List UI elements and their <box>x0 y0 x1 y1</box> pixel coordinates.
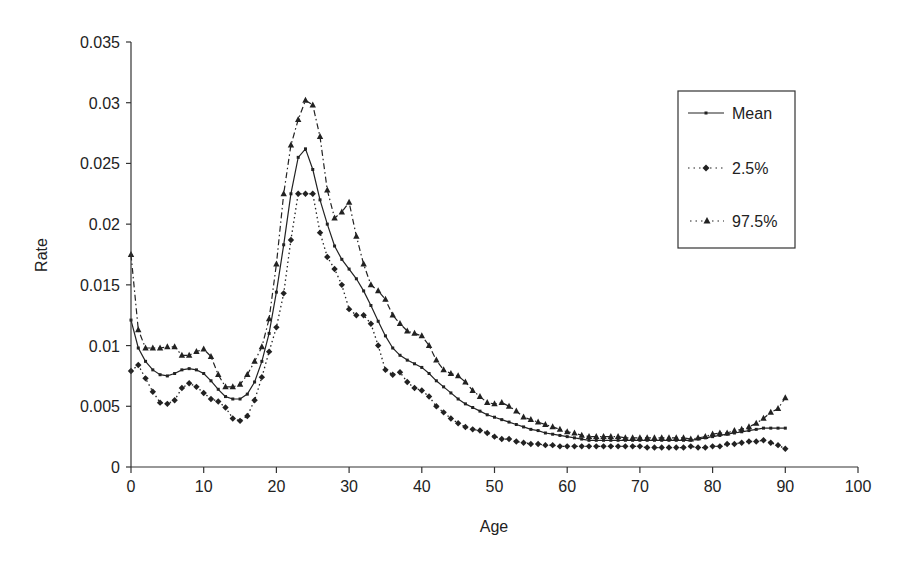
square-marker-icon <box>595 439 598 442</box>
square-marker-icon <box>420 366 423 369</box>
triangle-marker-icon <box>462 378 468 384</box>
square-marker-icon <box>348 268 351 271</box>
triangle-marker-icon <box>615 433 621 439</box>
triangle-marker-icon <box>390 312 396 318</box>
diamond-marker-icon <box>746 438 752 444</box>
square-marker-icon <box>617 439 620 442</box>
square-marker-icon <box>784 427 787 430</box>
diamond-marker-icon <box>579 443 585 449</box>
square-marker-icon <box>762 427 765 430</box>
square-marker-icon <box>151 368 154 371</box>
diamond-marker-icon <box>324 254 330 260</box>
square-marker-icon <box>755 428 758 431</box>
diamond-marker-icon <box>484 430 490 436</box>
diamond-marker-icon <box>310 191 316 197</box>
triangle-marker-icon <box>353 233 359 239</box>
square-marker-icon <box>769 427 772 430</box>
legend-label-2-5: 2.5% <box>732 160 768 177</box>
triangle-marker-icon <box>571 429 577 435</box>
triangle-marker-icon <box>280 190 286 196</box>
diamond-marker-icon <box>615 443 621 449</box>
square-marker-icon <box>515 423 518 426</box>
triangle-marker-icon <box>295 116 301 122</box>
diamond-marker-icon <box>724 441 730 447</box>
diamond-marker-icon <box>157 399 163 405</box>
triangle-marker-icon <box>644 434 650 440</box>
diamond-marker-icon <box>150 389 156 395</box>
square-marker-icon <box>428 372 431 375</box>
square-marker-icon <box>159 373 162 376</box>
x-axis: 0102030405060708090100 <box>127 467 872 495</box>
y-axis: 00.0050.010.0150.020.0250.030.035 <box>80 34 131 476</box>
diamond-marker-icon <box>331 266 337 272</box>
square-marker-icon <box>224 395 227 398</box>
triangle-marker-icon <box>760 415 766 421</box>
diamond-marker-icon <box>549 442 555 448</box>
triangle-marker-icon <box>179 352 185 358</box>
triangle-marker-icon <box>629 434 635 440</box>
x-axis-title: Age <box>480 518 509 535</box>
diamond-marker-icon <box>273 324 279 330</box>
x-tick-label: 80 <box>704 478 722 495</box>
diamond-marker-icon <box>651 444 657 450</box>
triangle-marker-icon <box>288 142 294 148</box>
square-marker-icon <box>289 192 292 195</box>
square-marker-icon <box>144 360 147 363</box>
square-marker-icon <box>166 374 169 377</box>
square-marker-icon <box>202 372 205 375</box>
diamond-marker-icon <box>499 436 505 442</box>
y-tick-label: 0.03 <box>89 95 120 112</box>
x-tick-label: 20 <box>268 478 286 495</box>
diamond-marker-icon <box>506 436 512 442</box>
diamond-marker-icon <box>709 443 715 449</box>
triangle-marker-icon <box>753 420 759 426</box>
diamond-marker-icon <box>251 397 257 403</box>
square-marker-icon <box>471 406 474 409</box>
x-tick-label: 30 <box>340 478 358 495</box>
triangle-marker-icon <box>775 405 781 411</box>
square-marker-icon <box>609 439 612 442</box>
triangle-marker-icon <box>666 434 672 440</box>
square-marker-icon <box>413 362 416 365</box>
diamond-marker-icon <box>477 427 483 433</box>
triangle-marker-icon <box>782 394 788 400</box>
square-marker-icon <box>231 398 234 401</box>
diamond-marker-icon <box>222 404 228 410</box>
diamond-marker-icon <box>135 362 141 368</box>
square-marker-icon <box>558 434 561 437</box>
diamond-marker-icon <box>186 380 192 386</box>
diamond-marker-icon <box>760 437 766 443</box>
diamond-marker-icon <box>491 433 497 439</box>
square-marker-icon <box>493 416 496 419</box>
triangle-marker-icon <box>164 343 170 349</box>
triangle-marker-icon <box>637 434 643 440</box>
square-marker-icon <box>319 198 322 201</box>
x-tick-label: 90 <box>776 478 794 495</box>
diamond-marker-icon <box>571 443 577 449</box>
square-marker-icon <box>580 438 583 441</box>
square-marker-icon <box>188 367 191 370</box>
diamond-marker-icon <box>404 379 410 385</box>
diamond-marker-icon <box>230 415 236 421</box>
triangle-marker-icon <box>397 320 403 326</box>
square-marker-icon <box>398 354 401 357</box>
diamond-marker-icon <box>317 229 323 235</box>
diamond-marker-icon <box>237 418 243 424</box>
square-marker-icon <box>537 429 540 432</box>
diamond-marker-icon <box>557 443 563 449</box>
diamond-marker-icon <box>717 443 723 449</box>
square-marker-icon <box>275 291 278 294</box>
square-marker-icon <box>173 372 176 375</box>
legend: Mean 2.5% 97.5% <box>678 91 795 248</box>
y-tick-label: 0.02 <box>89 216 120 233</box>
diamond-marker-icon <box>782 446 788 452</box>
triangle-marker-icon <box>419 332 425 338</box>
square-marker-icon <box>544 432 547 435</box>
diamond-marker-icon <box>695 444 701 450</box>
triangle-marker-icon <box>746 423 752 429</box>
square-marker-icon <box>602 439 605 442</box>
x-tick-label: 40 <box>413 478 431 495</box>
diamond-marker-icon <box>201 390 207 396</box>
diamond-marker-icon <box>768 440 774 446</box>
diamond-marker-icon <box>193 384 199 390</box>
